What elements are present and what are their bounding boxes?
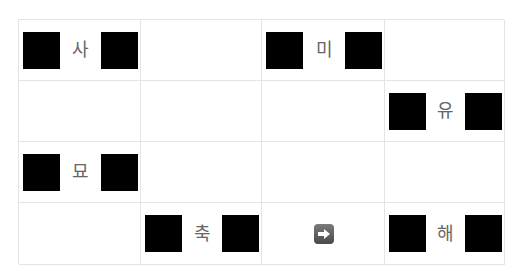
cell-char: 해 xyxy=(437,225,454,243)
grid-cell-3-2 xyxy=(262,203,385,265)
grid-cell-2-1 xyxy=(141,142,262,203)
redaction-block xyxy=(222,215,259,252)
grid-cell-0-3 xyxy=(385,20,505,81)
grid-cell-3-1: 축 xyxy=(141,203,262,265)
grid-cell-1-0 xyxy=(19,81,141,142)
redaction-block xyxy=(23,154,60,191)
cell-char: 축 xyxy=(194,225,211,243)
grid-cell-1-1 xyxy=(141,81,262,142)
cell-char: 유 xyxy=(437,102,454,120)
cell-char: 사 xyxy=(72,41,89,59)
right-arrow-icon[interactable] xyxy=(314,224,334,244)
grid-cell-1-3: 유 xyxy=(385,81,505,142)
redaction-block xyxy=(145,215,182,252)
grid-cell-3-3: 해 xyxy=(385,203,505,265)
redaction-block xyxy=(23,32,60,69)
zodiac-grid: 사 미 유 묘 축 해 xyxy=(18,19,504,264)
cell-char: 묘 xyxy=(72,163,89,181)
arrow-glyph xyxy=(317,228,331,240)
redaction-block xyxy=(389,93,426,130)
redaction-block xyxy=(266,32,303,69)
grid-cell-0-0: 사 xyxy=(19,20,141,81)
grid-cell-1-2 xyxy=(262,81,385,142)
redaction-block xyxy=(101,154,138,191)
redaction-block xyxy=(389,215,426,252)
cell-char: 미 xyxy=(316,41,333,59)
grid-cell-2-3 xyxy=(385,142,505,203)
redaction-block xyxy=(345,32,382,69)
grid-cell-0-2: 미 xyxy=(262,20,385,81)
grid-cell-2-0: 묘 xyxy=(19,142,141,203)
redaction-block xyxy=(465,93,502,130)
redaction-block xyxy=(465,215,502,252)
grid-cell-2-2 xyxy=(262,142,385,203)
grid-cell-3-0 xyxy=(19,203,141,265)
grid-cell-0-1 xyxy=(141,20,262,81)
redaction-block xyxy=(101,32,138,69)
